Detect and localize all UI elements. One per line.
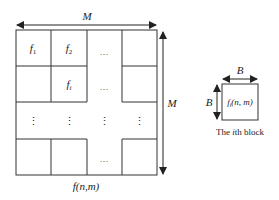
image-function-label: f(n,m) (73, 180, 100, 193)
cell-f2: f2 (66, 42, 73, 56)
height-label: M (166, 97, 177, 109)
single-block-detail: B B fi(n, m) The ith block (206, 64, 265, 137)
block-height-label: B (206, 96, 213, 108)
v-ellipsis: ⋮ (64, 115, 75, 127)
cell-fi: fi (66, 78, 71, 92)
block-width-label: B (237, 64, 244, 76)
h-ellipsis: … (100, 154, 109, 164)
block-caption: The ith block (216, 127, 265, 137)
v-ellipsis: ⋮ (134, 115, 145, 127)
v-ellipsis: ⋮ (99, 115, 110, 127)
width-label: M (81, 10, 92, 22)
cell-f1: f1 (30, 42, 37, 56)
v-ellipsis: ⋮ (28, 115, 39, 127)
h-ellipsis: … (100, 82, 109, 92)
width-dimension: M (17, 10, 156, 25)
height-dimension: M (163, 32, 177, 174)
grid-lines (16, 30, 157, 175)
h-ellipsis: … (100, 47, 109, 57)
block-content: fi(n, m) (227, 97, 253, 108)
block-partition-diagram: M M f1 f2 fi … … … ⋮ ⋮ ⋮ ⋮ f(n,m) (0, 0, 279, 200)
